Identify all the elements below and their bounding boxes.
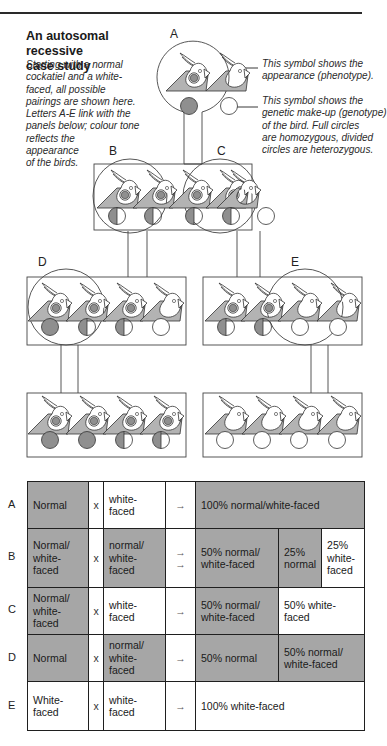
row-label-d: D (8, 651, 16, 663)
result-cell: 50% normal/ white-faced (196, 529, 279, 588)
result-cell: 50% normal (196, 635, 279, 682)
parent2-cell: normal/ white-faced (104, 635, 166, 682)
parent2-cell: white-faced (104, 482, 166, 529)
parent1-cell: Normal/ white-faced (28, 529, 89, 588)
genotype-empty-icon (221, 98, 238, 115)
table-row-e: White-faced x white-faced → 100% white-f… (28, 682, 365, 731)
panel-bc-birds (97, 170, 275, 225)
result-cell: 50% normal/ white-faced (279, 635, 365, 682)
table-row-a: Normal x white-faced → 100% normal/white… (28, 482, 365, 529)
table-row-b: Normal/ white-faced x normal/ white-face… (28, 529, 365, 588)
result-cell: 50% white-faced (279, 588, 365, 635)
parent1-cell: White-faced (28, 682, 89, 731)
offspring-d-birds (28, 396, 184, 449)
row-label-c: C (8, 603, 16, 615)
row-label-a: A (8, 498, 15, 510)
result-cell: 50% normal/ white-faced (196, 588, 279, 635)
arrow-icon: → (166, 588, 196, 635)
result-cell: 100% normal/white-faced (196, 482, 365, 529)
parent2-cell: white-faced (104, 682, 166, 731)
genotype-full-icon (181, 98, 198, 115)
cross-symbol: x (89, 588, 104, 635)
parent1-cell: Normal/ white-faced (28, 588, 89, 635)
result-cell: 100% white-faced (196, 682, 365, 731)
parent1-cell: Normal (28, 482, 89, 529)
arrow-icon: → (166, 635, 196, 682)
parent2-cell: normal/ white-faced (104, 529, 166, 588)
cross-symbol: x (89, 529, 104, 588)
panel-e-birds (205, 283, 361, 336)
row-label-e: E (8, 699, 15, 711)
result-cell: 25% white-faced (322, 529, 365, 588)
parent1-cell: Normal (28, 635, 89, 682)
arrow-icon: → (166, 682, 196, 731)
pedigree-diagram (0, 0, 385, 470)
row-label-b: B (8, 550, 15, 562)
parent2-cell: white-faced (104, 588, 166, 635)
cross-symbol: x (89, 635, 104, 682)
table-row-c: Normal/ white-faced x white-faced → 50% … (28, 588, 365, 635)
result-cell: 25% normal (279, 529, 322, 588)
panel-d-birds (28, 283, 184, 336)
crosses-table: Normal x white-faced → 100% normal/white… (27, 481, 365, 731)
cross-symbol: x (89, 482, 104, 529)
arrow-icon: →→ (166, 529, 196, 588)
offspring-e-birds (205, 396, 361, 449)
arrow-icon: → (166, 482, 196, 529)
table-row-d: Normal x normal/ white-faced → 50% norma… (28, 635, 365, 682)
cross-symbol: x (89, 682, 104, 731)
